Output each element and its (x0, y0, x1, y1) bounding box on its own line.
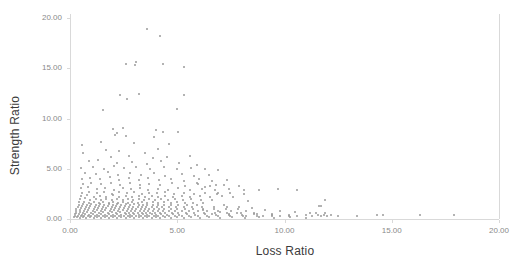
data-point (184, 185, 186, 187)
data-point (89, 177, 91, 179)
data-point (198, 178, 200, 180)
data-point (116, 132, 118, 134)
data-point (127, 198, 129, 200)
data-point (133, 203, 135, 205)
y-tick-label: 10.00 (22, 114, 62, 123)
x-tick-mark (285, 220, 286, 223)
data-point (170, 178, 172, 180)
data-point (219, 211, 221, 213)
data-point (162, 63, 164, 65)
data-point (95, 198, 97, 200)
data-point (323, 214, 325, 216)
data-point (129, 172, 131, 174)
data-point (135, 166, 137, 168)
data-point (96, 188, 98, 190)
data-point (162, 131, 164, 133)
data-point (92, 166, 94, 168)
data-point (192, 208, 194, 210)
data-point (164, 191, 166, 193)
data-point (238, 206, 240, 208)
data-point (125, 217, 127, 219)
data-point (114, 134, 116, 136)
data-point (164, 195, 166, 197)
data-point (167, 189, 169, 191)
y-tick-label: 0.00 (22, 214, 62, 223)
data-point (184, 208, 186, 210)
data-point (103, 191, 105, 193)
x-tick-mark (70, 220, 71, 223)
data-point (84, 172, 86, 174)
data-point (183, 217, 185, 219)
data-point (277, 188, 279, 190)
data-point (88, 191, 90, 193)
data-point (153, 136, 155, 138)
data-point (112, 216, 114, 218)
data-point (128, 155, 130, 157)
data-point (193, 193, 195, 195)
data-point (264, 209, 266, 211)
data-point (168, 210, 170, 212)
data-point (279, 215, 281, 217)
data-point (143, 199, 145, 201)
data-point (100, 141, 102, 143)
data-point (73, 216, 75, 218)
data-point (138, 195, 140, 197)
data-point (189, 189, 191, 191)
data-point (305, 217, 307, 219)
data-point (221, 195, 223, 197)
data-point (183, 192, 185, 194)
data-point (296, 215, 298, 217)
data-point (126, 98, 128, 100)
data-point (80, 187, 82, 189)
y-tick-label: 5.00 (22, 164, 62, 173)
data-point (152, 157, 154, 159)
data-point (148, 183, 150, 185)
data-point (223, 184, 225, 186)
data-point (168, 143, 170, 145)
data-point (177, 131, 179, 133)
data-point (108, 217, 110, 219)
data-point (155, 216, 157, 218)
data-point (204, 192, 206, 194)
data-point (176, 168, 178, 170)
data-point (190, 216, 192, 218)
data-point (100, 183, 102, 185)
data-point (119, 94, 121, 96)
data-point (204, 186, 206, 188)
data-point (149, 168, 151, 170)
plot-right-border (499, 14, 500, 219)
data-point (176, 108, 178, 110)
data-point (251, 207, 253, 209)
data-point (123, 167, 125, 169)
data-point (80, 195, 82, 197)
data-point (167, 199, 169, 201)
data-point (183, 94, 185, 96)
data-point (197, 210, 199, 212)
data-point (163, 166, 165, 168)
data-point (104, 216, 106, 218)
data-point (104, 187, 106, 189)
data-point (196, 164, 198, 166)
data-point (217, 192, 219, 194)
data-point (237, 208, 239, 210)
data-point (177, 187, 179, 189)
data-point (182, 199, 184, 201)
data-point (93, 201, 95, 203)
data-point (153, 172, 155, 174)
data-point (117, 174, 119, 176)
data-point (89, 199, 91, 201)
data-point (116, 198, 118, 200)
data-point (309, 212, 311, 214)
data-point (317, 214, 319, 216)
data-point (245, 210, 247, 212)
data-point (166, 156, 168, 158)
data-point (177, 204, 179, 206)
data-point (122, 127, 124, 129)
data-point (81, 144, 83, 146)
data-point (382, 214, 384, 216)
data-point (243, 193, 245, 195)
data-point (100, 217, 102, 219)
x-tick-label: 20.00 (479, 226, 519, 235)
data-point (109, 176, 111, 178)
data-point (110, 156, 112, 158)
